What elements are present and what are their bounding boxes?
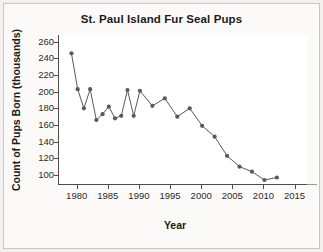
y-tick-label: 200 bbox=[30, 87, 54, 97]
x-tick-label: 1990 bbox=[122, 190, 156, 201]
y-tick-label: 140 bbox=[30, 137, 54, 147]
x-tick-mark bbox=[170, 185, 171, 189]
x-tick-label: 1995 bbox=[153, 190, 187, 201]
x-tick-mark bbox=[263, 185, 264, 189]
data-point bbox=[163, 96, 167, 100]
x-tick-label: 2005 bbox=[215, 190, 249, 201]
series-polyline bbox=[71, 53, 276, 180]
data-point bbox=[225, 154, 229, 158]
data-point bbox=[250, 170, 254, 174]
x-tick-label: 1985 bbox=[91, 190, 125, 201]
x-tick-mark bbox=[295, 185, 296, 189]
y-tick-label: 180 bbox=[30, 103, 54, 113]
data-point bbox=[150, 104, 154, 108]
x-axis-label: Year bbox=[60, 219, 290, 231]
data-point bbox=[107, 105, 111, 109]
data-point bbox=[275, 175, 279, 179]
data-point bbox=[138, 89, 142, 93]
y-tick-label: 100 bbox=[30, 170, 54, 180]
series-markers bbox=[69, 51, 279, 182]
x-tick-label: 1980 bbox=[60, 190, 94, 201]
y-tick-label: 120 bbox=[30, 153, 54, 163]
y-tick-label: 220 bbox=[30, 70, 54, 80]
plot-area bbox=[58, 35, 307, 185]
x-tick-mark bbox=[201, 185, 202, 189]
data-point bbox=[76, 87, 80, 91]
data-point bbox=[88, 87, 92, 91]
data-point bbox=[262, 178, 266, 182]
x-tick-label: 2010 bbox=[246, 190, 280, 201]
y-tick-label: 160 bbox=[30, 120, 54, 130]
axis-baseline-extension bbox=[307, 184, 317, 185]
series-line-chart bbox=[59, 35, 308, 185]
x-tick-label: 2015 bbox=[278, 190, 312, 201]
data-point bbox=[82, 106, 86, 110]
data-point bbox=[213, 135, 217, 139]
data-point bbox=[69, 51, 73, 55]
data-point bbox=[188, 106, 192, 110]
x-tick-mark bbox=[108, 185, 109, 189]
y-axis-label: Count of Pups Born (thousands) bbox=[10, 22, 22, 198]
y-axis-tick-labels: 100120140160180200220240260 bbox=[28, 0, 54, 252]
x-tick-label: 2000 bbox=[184, 190, 218, 201]
data-point bbox=[237, 165, 241, 169]
figure-container: St. Paul Island Fur Seal Pups Count of P… bbox=[0, 0, 323, 252]
data-point bbox=[113, 116, 117, 120]
data-point bbox=[119, 114, 123, 118]
data-point bbox=[132, 114, 136, 118]
x-tick-mark bbox=[232, 185, 233, 189]
data-point bbox=[94, 118, 98, 122]
x-tick-mark bbox=[139, 185, 140, 189]
data-point bbox=[125, 88, 129, 92]
y-tick-label: 260 bbox=[30, 37, 54, 47]
y-tick-label: 240 bbox=[30, 53, 54, 63]
data-point bbox=[200, 124, 204, 128]
x-tick-mark bbox=[77, 185, 78, 189]
data-point bbox=[100, 112, 104, 116]
data-point bbox=[175, 115, 179, 119]
